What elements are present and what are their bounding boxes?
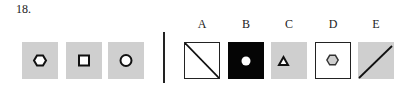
sequence-box-2 [66, 42, 102, 79]
option-label-b: B [228, 17, 264, 32]
option-label-e: E [358, 17, 394, 32]
option-d[interactable] [315, 42, 351, 79]
hexagon-icon [22, 42, 58, 79]
question-number: 18. [16, 2, 31, 17]
circle-icon [108, 42, 144, 79]
square-icon [66, 42, 102, 79]
option-label-d: D [315, 17, 351, 32]
option-c[interactable] [271, 42, 307, 79]
option-label-c: C [271, 17, 307, 32]
diagonal-line-icon [358, 42, 394, 79]
option-a[interactable] [184, 42, 220, 79]
dot-icon [228, 42, 264, 79]
sequence-box-3 [108, 42, 144, 79]
hexagon-icon [316, 43, 350, 78]
divider-line [163, 32, 165, 83]
diagonal-line-icon [185, 43, 219, 78]
triangle-icon [271, 42, 307, 79]
option-e[interactable] [358, 42, 394, 79]
option-b[interactable] [228, 42, 264, 79]
option-label-a: A [184, 17, 220, 32]
sequence-box-1 [22, 42, 58, 79]
